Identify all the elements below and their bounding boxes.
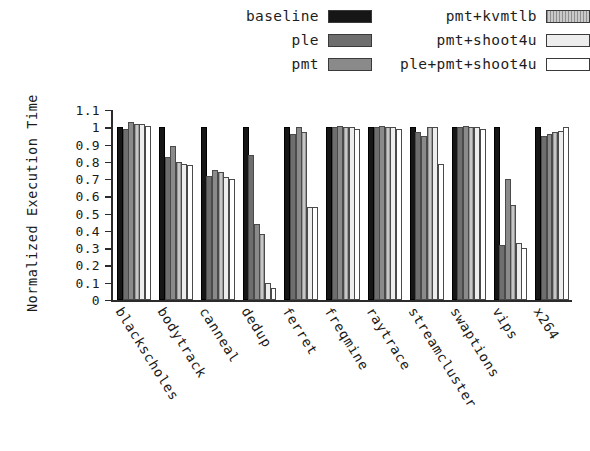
bar-group bbox=[368, 110, 401, 300]
legend-label-pmt-shoot4u: pmt+shoot4u bbox=[437, 33, 537, 48]
y-axis-tick-label: 0.1 bbox=[76, 275, 100, 290]
bar bbox=[563, 127, 569, 300]
y-axis-tick-label: 0.9 bbox=[76, 137, 100, 152]
y-axis-tick-label: 0.6 bbox=[76, 189, 100, 204]
bar-group bbox=[452, 110, 485, 300]
legend-column-right: pmt+kvmtlb pmt+shoot4u ple+pmt+shoot4u bbox=[372, 4, 590, 76]
legend-item-ple: ple bbox=[196, 28, 372, 52]
x-axis-tick-label: dedup bbox=[238, 304, 275, 350]
legend-label-pmt-kvmtlb: pmt+kvmtlb bbox=[446, 9, 537, 24]
chart-legend: baseline ple pmt pmt+kvmtlb pmt+shoot4u bbox=[196, 4, 590, 76]
bar-group bbox=[159, 110, 192, 300]
y-axis-tick bbox=[105, 162, 112, 163]
plot-area: 00.10.20.30.40.50.60.70.80.911.1 bbox=[112, 110, 572, 300]
legend-label-pmt: pmt bbox=[292, 57, 319, 72]
y-axis-tick bbox=[105, 196, 112, 197]
y-axis-tick bbox=[105, 110, 112, 111]
legend-item-ple-pmt-shoot4u: ple+pmt+shoot4u bbox=[372, 52, 590, 76]
bar bbox=[521, 248, 527, 300]
bar bbox=[396, 129, 402, 300]
bar bbox=[480, 129, 486, 300]
y-axis-tick-label: 1 bbox=[92, 120, 100, 135]
bar-group bbox=[243, 110, 276, 300]
y-axis-tick-label: 0 bbox=[92, 293, 100, 308]
y-axis-line bbox=[111, 110, 113, 300]
bar-group bbox=[410, 110, 443, 300]
bar bbox=[187, 165, 193, 300]
bar bbox=[271, 288, 277, 300]
bar bbox=[229, 179, 235, 300]
y-axis-tick-label: 0.7 bbox=[76, 172, 100, 187]
y-axis-tick bbox=[105, 265, 112, 266]
y-axis-tick-label: 0.5 bbox=[76, 206, 100, 221]
x-axis-tick-label: ferret bbox=[280, 304, 322, 358]
legend-item-baseline: baseline bbox=[196, 4, 372, 28]
bar-group bbox=[326, 110, 359, 300]
y-axis-tick bbox=[105, 248, 112, 249]
bar-group bbox=[201, 110, 234, 300]
y-axis-tick bbox=[105, 127, 112, 128]
legend-swatch-pmt bbox=[328, 58, 372, 71]
bar-group bbox=[535, 110, 568, 300]
legend-item-pmt: pmt bbox=[196, 52, 372, 76]
bar bbox=[438, 164, 444, 300]
y-axis-title: Normalized Execution Time bbox=[24, 88, 40, 318]
legend-column-left: baseline ple pmt bbox=[196, 4, 372, 76]
y-axis-tick bbox=[105, 231, 112, 232]
y-axis-tick bbox=[105, 145, 112, 146]
bar-chart-figure: baseline ple pmt pmt+kvmtlb pmt+shoot4u bbox=[0, 0, 590, 451]
y-axis-tick-label: 0.4 bbox=[76, 223, 100, 238]
x-axis-tick-labels: blackscholesbodytrackcannealdedupferretf… bbox=[112, 300, 572, 450]
y-axis-tick bbox=[105, 214, 112, 215]
legend-swatch-pmt-kvmtlb bbox=[546, 10, 590, 23]
legend-swatch-pmt-shoot4u bbox=[546, 34, 590, 47]
x-axis-tick-label: vips bbox=[489, 304, 521, 343]
legend-swatch-baseline bbox=[328, 10, 372, 23]
legend-label-ple-pmt-shoot4u: ple+pmt+shoot4u bbox=[400, 57, 537, 72]
y-axis-tick bbox=[105, 300, 112, 301]
legend-label-baseline: baseline bbox=[246, 9, 319, 24]
legend-label-ple: ple bbox=[292, 33, 319, 48]
bar bbox=[145, 126, 151, 300]
y-axis-tick-label: 0.3 bbox=[76, 241, 100, 256]
bar-group bbox=[117, 110, 150, 300]
legend-item-pmt-shoot4u: pmt+shoot4u bbox=[372, 28, 590, 52]
legend-swatch-ple bbox=[328, 34, 372, 47]
y-axis-tick bbox=[105, 179, 112, 180]
y-axis-tick-label: 0.8 bbox=[76, 154, 100, 169]
y-axis-tick bbox=[105, 283, 112, 284]
bar bbox=[354, 129, 360, 300]
x-axis-tick-label: x264 bbox=[531, 304, 563, 343]
y-axis-tick-label: 0.2 bbox=[76, 258, 100, 273]
legend-item-pmt-kvmtlb: pmt+kvmtlb bbox=[372, 4, 590, 28]
legend-swatch-ple-pmt-shoot4u bbox=[546, 58, 590, 71]
bar-group bbox=[494, 110, 527, 300]
x-axis-tick-label: canneal bbox=[196, 304, 243, 365]
y-axis-tick-label: 1.1 bbox=[76, 103, 100, 118]
bar bbox=[312, 207, 318, 300]
bar-group bbox=[284, 110, 317, 300]
